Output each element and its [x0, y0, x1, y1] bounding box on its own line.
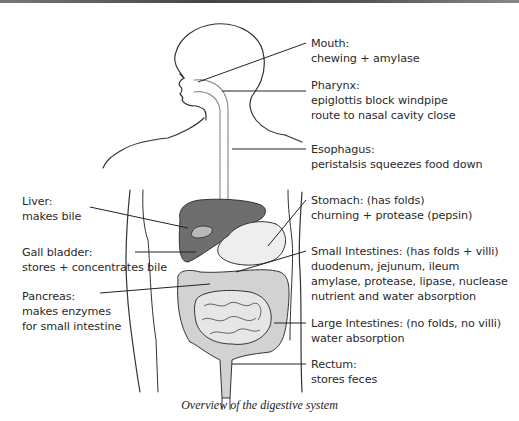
- label-gall-bladder: Gall bladder: stores + concentrates bile: [22, 245, 167, 275]
- label-title: Pancreas:: [22, 289, 121, 304]
- label-rectum: Rectum: stores feces: [311, 357, 377, 387]
- label-line: nutrient and water absorption: [311, 289, 508, 304]
- figure-caption: Overview of the digestive system: [0, 398, 519, 413]
- label-line: duodenum, jejunum, ileum: [311, 259, 508, 274]
- label-line: amylase, protease, lipase, nuclease: [311, 274, 508, 289]
- label-title: Esophagus:: [311, 142, 483, 157]
- label-esophagus: Esophagus: peristalsis squeezes food dow…: [311, 142, 483, 172]
- label-line: stores feces: [311, 372, 377, 387]
- label-pharynx: Pharynx: epiglottis block windpipe route…: [311, 78, 456, 123]
- label-line: for small intestine: [22, 319, 121, 334]
- mouth-leader-line: [198, 43, 306, 82]
- label-line: epiglottis block windpipe: [311, 93, 456, 108]
- label-title: Liver:: [22, 194, 81, 209]
- label-title: Pharynx:: [311, 78, 456, 93]
- liver-leader-line: [90, 207, 188, 228]
- label-title: Rectum:: [311, 357, 377, 372]
- label-line: makes enzymes: [22, 304, 121, 319]
- label-line: chewing + amylase: [311, 51, 419, 66]
- head-outline: [175, 24, 285, 135]
- label-title: Gall bladder:: [22, 245, 167, 260]
- label-small-intestines: Small Intestines: (has folds + villi) du…: [311, 244, 508, 304]
- label-pancreas: Pancreas: makes enzymes for small intest…: [22, 289, 121, 334]
- torso-right: [299, 192, 302, 392]
- label-mouth: Mouth: chewing + amylase: [311, 36, 419, 66]
- label-title: Large Intestines: (no folds, no villi): [311, 316, 501, 331]
- label-title: Mouth:: [311, 36, 419, 51]
- label-line: churning + protease (pepsin): [311, 208, 472, 223]
- label-line: peristalsis squeezes food down: [311, 157, 483, 172]
- left-shoulder: [103, 118, 204, 168]
- label-title: Stomach: (has folds): [311, 193, 472, 208]
- right-shoulder: [285, 135, 302, 142]
- label-large-intestines: Large Intestines: (no folds, no villi) w…: [311, 316, 501, 346]
- label-liver: Liver: makes bile: [22, 194, 81, 224]
- label-line: stores + concentrates bile: [22, 260, 167, 275]
- label-line: makes bile: [22, 209, 81, 224]
- label-line: water absorption: [311, 331, 501, 346]
- label-title: Small Intestines: (has folds + villi): [311, 244, 508, 259]
- label-line: route to nasal cavity close: [311, 108, 456, 123]
- label-stomach: Stomach: (has folds) churning + protease…: [311, 193, 472, 223]
